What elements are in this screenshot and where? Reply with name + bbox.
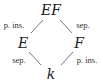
edge-ef-f [60, 20, 72, 33]
edge-label-e-k: sep. [12, 56, 25, 65]
edge-ef-e [31, 20, 43, 33]
node-e: E [18, 36, 28, 50]
node-k: k [47, 67, 55, 81]
edge-label-f-k: p. ins. [77, 56, 98, 65]
edge-label-ef-f: sep. [76, 21, 89, 30]
node-ef: EF [41, 3, 61, 17]
node-f: F [74, 36, 84, 50]
edge-f-k [61, 52, 73, 65]
edge-label-ef-e: p. ins. [4, 21, 25, 30]
edge-e-k [29, 52, 41, 65]
